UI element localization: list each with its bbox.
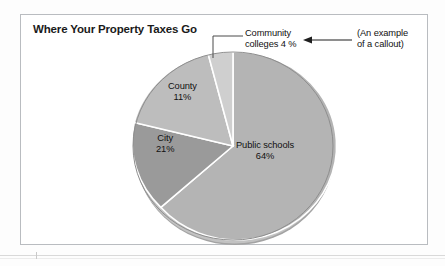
page-title: Where Your Property Taxes Go <box>33 23 197 35</box>
callout-annotation-line2: of a callout) <box>357 39 404 49</box>
pie-label-city-value: 21% <box>156 144 174 155</box>
callout-annotation: (An example of a callout) <box>357 28 408 50</box>
page-rule <box>0 255 445 256</box>
pie-label-county-name: County <box>168 81 197 91</box>
page-rule-secondary <box>0 258 445 259</box>
pie-label-public-schools-value: 64% <box>236 151 294 162</box>
pie-label-community-colleges: Community colleges 4 % <box>245 28 297 50</box>
pie-label-city: City 21% <box>156 133 174 155</box>
pie-label-county: County 11% <box>168 81 197 103</box>
pie-label-county-value: 11% <box>168 92 197 103</box>
page-gutter-tick <box>36 252 37 259</box>
pie-label-community-colleges-name: Community <box>245 28 291 38</box>
pie-label-public-schools: Public schools 64% <box>236 140 294 162</box>
pie-label-public-schools-name: Public schools <box>236 140 294 150</box>
callout-annotation-line1: (An example <box>357 28 408 38</box>
pie-label-community-colleges-value: colleges 4 % <box>245 39 297 49</box>
pie-label-city-name: City <box>157 133 173 143</box>
